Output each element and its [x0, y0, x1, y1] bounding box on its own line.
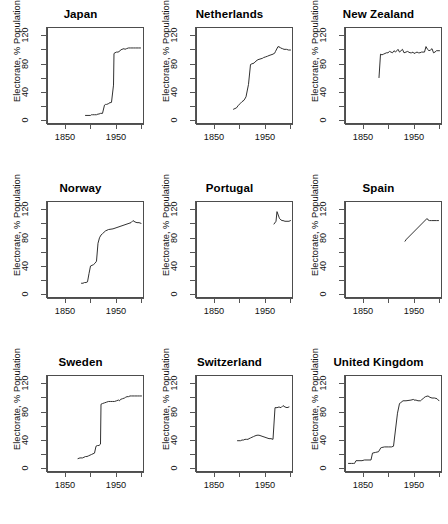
- y-tick: [339, 266, 344, 267]
- y-tick: [339, 280, 344, 281]
- x-tick: [116, 472, 117, 477]
- plot-area: [196, 201, 293, 298]
- panel-title: Spain: [304, 182, 448, 195]
- y-tick: [41, 440, 46, 441]
- y-tick-label: 120: [318, 196, 328, 222]
- panel-title: New Zealand: [304, 8, 448, 21]
- x-tick: [141, 124, 142, 129]
- y-tick: [339, 294, 344, 295]
- y-tick: [41, 397, 46, 398]
- x-tick-label: 1850: [197, 306, 231, 316]
- plot-area: [47, 201, 144, 298]
- x-tick: [414, 124, 415, 129]
- y-tick-label: 80: [169, 225, 179, 251]
- x-tick: [265, 472, 266, 477]
- y-tick: [190, 223, 195, 224]
- y-tick: [339, 412, 344, 413]
- y-tick: [41, 223, 46, 224]
- panel-title: Norway: [6, 182, 155, 195]
- x-tick: [214, 472, 215, 477]
- y-tick-label: 120: [20, 22, 30, 48]
- x-tick: [414, 472, 415, 477]
- panel-title: Netherlands: [155, 8, 304, 21]
- x-axis-line: [47, 124, 144, 125]
- y-tick: [339, 223, 344, 224]
- y-tick: [339, 454, 344, 455]
- x-tick-label: 1850: [346, 306, 380, 316]
- y-tick: [41, 383, 46, 384]
- x-tick-label: 1950: [397, 480, 431, 490]
- x-tick-label: 1950: [99, 306, 133, 316]
- y-tick: [339, 64, 344, 65]
- y-tick: [190, 120, 195, 121]
- y-tick-label: 40: [318, 253, 328, 279]
- x-tick: [141, 472, 142, 477]
- y-tick-label: 40: [20, 427, 30, 453]
- y-tick-label: 0: [20, 107, 30, 133]
- y-tick: [41, 209, 46, 210]
- y-tick: [41, 78, 46, 79]
- plot-area: [196, 27, 293, 124]
- x-tick-label: 1850: [48, 132, 82, 142]
- y-tick: [339, 426, 344, 427]
- y-tick-label: 0: [20, 455, 30, 481]
- x-tick: [439, 124, 440, 129]
- series-line: [78, 396, 141, 459]
- y-tick: [339, 106, 344, 107]
- x-axis-line: [196, 472, 293, 473]
- x-tick-label: 1850: [197, 132, 231, 142]
- x-tick: [388, 124, 389, 129]
- panel-netherlands: NetherlandsElectorate, % Population04080…: [155, 2, 304, 176]
- y-tick-label: 120: [20, 196, 30, 222]
- x-tick-label: 1950: [99, 480, 133, 490]
- x-tick: [65, 298, 66, 303]
- x-axis-line: [345, 472, 442, 473]
- y-tick-label: 120: [169, 196, 179, 222]
- y-tick-label: 40: [169, 79, 179, 105]
- y-tick-label: 0: [169, 281, 179, 307]
- x-tick: [116, 124, 117, 129]
- x-tick-label: 1850: [346, 132, 380, 142]
- x-tick: [388, 298, 389, 303]
- panel-norway: NorwayElectorate, % Population0408012018…: [6, 176, 155, 350]
- x-axis-line: [345, 298, 442, 299]
- y-tick-label: 80: [318, 399, 328, 425]
- y-tick-label: 80: [169, 51, 179, 77]
- y-tick: [190, 412, 195, 413]
- y-tick: [41, 266, 46, 267]
- y-tick-label: 0: [169, 455, 179, 481]
- y-tick-label: 0: [318, 281, 328, 307]
- y-tick: [339, 252, 344, 253]
- x-tick: [90, 472, 91, 477]
- y-tick-label: 0: [20, 281, 30, 307]
- y-tick: [190, 440, 195, 441]
- y-tick: [339, 238, 344, 239]
- x-tick-label: 1850: [48, 306, 82, 316]
- panel-japan: JapanElectorate, % Population04080120185…: [6, 2, 155, 176]
- series-line: [233, 47, 290, 110]
- x-tick-label: 1850: [346, 480, 380, 490]
- y-tick: [339, 78, 344, 79]
- y-tick: [41, 35, 46, 36]
- y-tick: [190, 397, 195, 398]
- x-tick: [363, 124, 364, 129]
- panel-united-kingdom: United KingdomElectorate, % Population04…: [304, 350, 448, 524]
- x-tick: [65, 124, 66, 129]
- y-tick-label: 80: [20, 225, 30, 251]
- y-tick: [41, 412, 46, 413]
- y-tick: [339, 209, 344, 210]
- x-axis-line: [47, 472, 144, 473]
- x-tick: [90, 124, 91, 129]
- y-tick: [41, 294, 46, 295]
- y-tick-label: 120: [318, 370, 328, 396]
- y-tick: [190, 454, 195, 455]
- plot-area: [47, 375, 144, 472]
- y-tick: [190, 64, 195, 65]
- y-tick: [339, 49, 344, 50]
- y-tick: [41, 120, 46, 121]
- y-tick: [339, 397, 344, 398]
- x-tick: [90, 298, 91, 303]
- y-tick: [190, 426, 195, 427]
- y-tick: [339, 120, 344, 121]
- y-tick: [190, 92, 195, 93]
